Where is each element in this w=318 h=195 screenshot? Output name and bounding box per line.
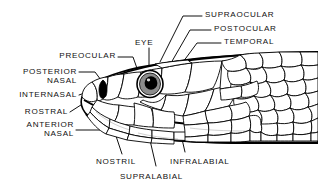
- label-rostral: ROSTRAL: [0, 107, 68, 116]
- nostril: [99, 80, 107, 98]
- label-eye: EYE: [135, 38, 153, 47]
- eye-highlight: [147, 79, 150, 82]
- leader-supraocular: [160, 16, 202, 62]
- label-preocular: PREOCULAR: [38, 51, 116, 60]
- eye: [137, 71, 163, 98]
- label-anterior-nasal-line2: NASAL: [0, 129, 74, 138]
- label-posterior-nasal-line1: POSTERIOR: [0, 67, 77, 76]
- label-posterior-nasal-line2: NASAL: [0, 76, 77, 85]
- label-anterior-nasal-line1: ANTERIOR: [0, 120, 74, 129]
- label-postocular: POSTOCULAR: [214, 24, 277, 33]
- label-supraocular: SUPRAOCULAR: [205, 10, 274, 19]
- label-supralabial: SUPRALABIAL: [120, 172, 183, 181]
- eye-pupil: [145, 76, 158, 90]
- label-nostril: NOSTRIL: [96, 157, 136, 166]
- label-internasal: INTERNASAL: [0, 90, 77, 99]
- label-infralabial: INFRALABIAL: [170, 157, 229, 166]
- label-temporal: TEMPORAL: [224, 37, 274, 46]
- nostril-slit: [99, 80, 107, 98]
- snake-head-scale-diagram: SUPRAOCULAR POSTOCULAR TEMPORAL EYE PREO…: [0, 0, 318, 195]
